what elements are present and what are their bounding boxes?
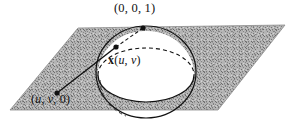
north-pole-label-text: (0, 0, 1) xyxy=(114,1,155,15)
stereographic-projection-figure: (0, 0, 1) x(u, v) (u, v, 0) xyxy=(0,0,296,124)
north-pole-point xyxy=(140,25,145,30)
sphere-point-label: x(u, v) xyxy=(108,54,141,66)
north-pole-label: (0, 0, 1) xyxy=(114,2,155,15)
plane-point-label: (u, v, 0) xyxy=(31,93,70,105)
sphere-point-label-close: ) xyxy=(137,53,141,67)
sphere-surface-point xyxy=(113,44,118,49)
plane-point-label-sep2: , 0) xyxy=(53,92,70,106)
